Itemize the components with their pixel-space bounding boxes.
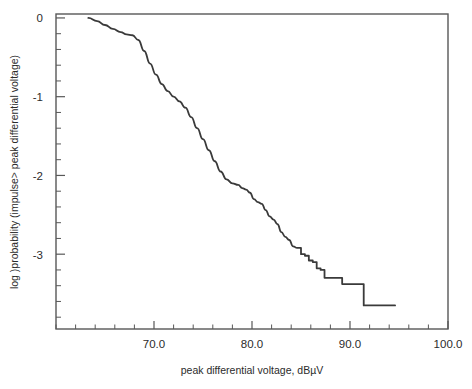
y-tick-label: -3 xyxy=(33,249,43,261)
x-axis-major-ticks xyxy=(154,321,448,329)
chart-figure: 70.080.090.0100.0 0-1-2-3 peak different… xyxy=(0,0,472,389)
y-tick-label: -2 xyxy=(33,170,43,182)
y-axis-tick-labels: 0-1-2-3 xyxy=(33,12,43,260)
x-axis-title: peak differential voltage, dBµV xyxy=(181,364,323,376)
data-series-group xyxy=(88,18,395,305)
y-tick-label: -1 xyxy=(33,91,43,103)
y-tick-label: 0 xyxy=(37,12,43,24)
x-tick-label: 100.0 xyxy=(434,338,463,350)
y-axis-major-ticks xyxy=(56,18,65,254)
x-axis-tick-labels: 70.080.090.0100.0 xyxy=(143,338,463,350)
plot-frame xyxy=(56,14,448,329)
x-tick-label: 80.0 xyxy=(241,338,263,350)
chart-page: 70.080.090.0100.0 0-1-2-3 peak different… xyxy=(0,0,472,389)
exceedance-probability-curve xyxy=(88,18,395,305)
x-tick-label: 90.0 xyxy=(339,338,361,350)
x-tick-label: 70.0 xyxy=(143,338,165,350)
y-axis-title: log )probability (impulse> peak differen… xyxy=(8,55,20,289)
plot-frame-rect xyxy=(56,14,448,329)
